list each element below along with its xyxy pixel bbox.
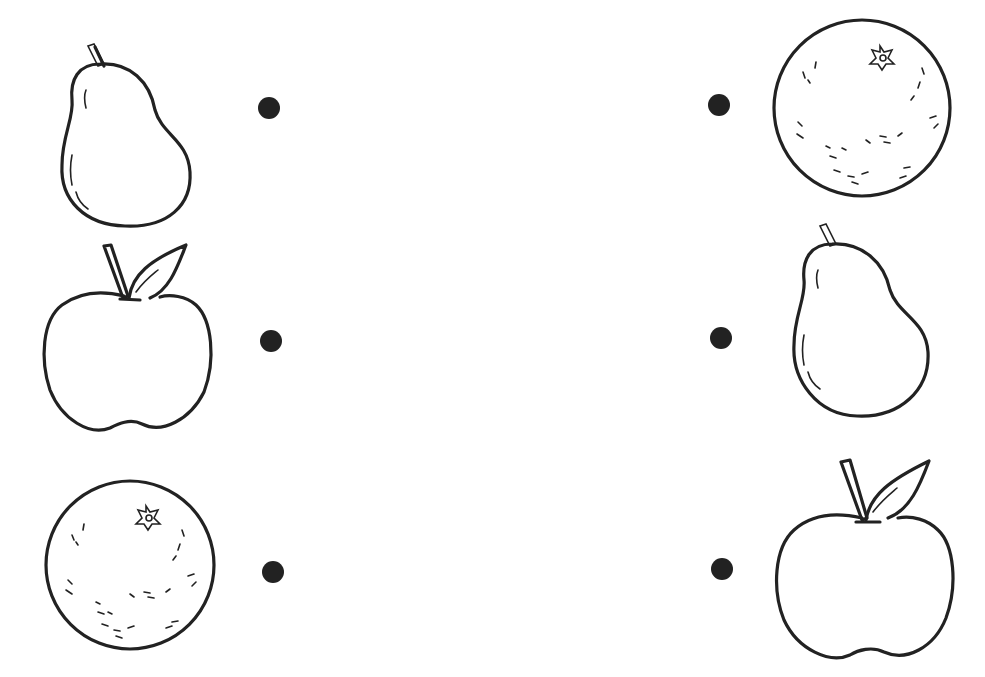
left-apple-illustration [44,245,211,430]
left-pear-illustration [62,44,190,226]
right-dot-1[interactable] [708,94,730,116]
left-dot-1[interactable] [258,97,280,119]
left-dot-2[interactable] [260,330,282,352]
right-pear-illustration [794,224,928,416]
right-dot-2[interactable] [710,327,732,349]
left-orange-illustration [46,481,214,649]
left-dot-3[interactable] [262,561,284,583]
right-orange-illustration [774,20,950,196]
right-apple-illustration [777,460,953,658]
right-dot-3[interactable] [711,558,733,580]
